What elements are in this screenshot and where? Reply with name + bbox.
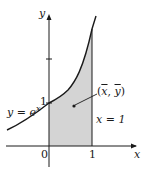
- y-axis-arrow-icon: [47, 14, 52, 20]
- curve-equation-lhs: y = e: [7, 106, 36, 119]
- y-axis-label: y: [39, 8, 45, 19]
- centroid-label-close: ): [121, 85, 125, 98]
- x-tick-label-1: 1: [89, 149, 96, 160]
- vertical-line-label: x = 1: [96, 114, 125, 125]
- x-axis-label: x: [134, 149, 140, 160]
- x-tick-label-0: 0: [41, 149, 48, 160]
- centroid-label: (x, y): [97, 86, 125, 97]
- centroid-point: [72, 104, 75, 107]
- curve-equation-exponent: x: [36, 104, 41, 113]
- diagram-canvas: [0, 0, 148, 174]
- y-tick-label-1: 1: [40, 96, 47, 107]
- curve-equation-label: y = ex: [7, 105, 40, 118]
- vertical-line-label-text: x = 1: [96, 113, 125, 126]
- centroid-label-sep: ,: [108, 85, 115, 98]
- centroid-diagram: y x 0 1 1 y = ex x = 1 (x, y): [0, 0, 148, 174]
